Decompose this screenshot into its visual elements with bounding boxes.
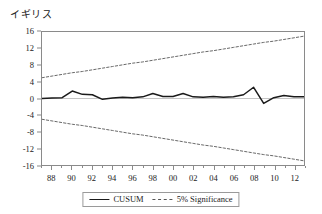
x-tick-mark-minor <box>122 166 123 168</box>
x-tick-mark <box>51 166 52 170</box>
x-tick-label: 08 <box>250 173 259 183</box>
x-tick-mark-minor <box>305 166 306 168</box>
y-tick-label: -12 <box>23 144 34 154</box>
x-tick-mark-minor <box>285 166 286 168</box>
x-tick-mark-minor <box>61 166 62 168</box>
x-tick-mark <box>193 166 194 170</box>
x-tick-mark <box>71 166 72 170</box>
y-tick-label: -8 <box>27 127 34 137</box>
cusum-chart: イギリス 1612840-4-8-12-16 88909294969800020… <box>0 0 322 214</box>
x-tick-mark <box>112 166 113 170</box>
plot-svg <box>42 32 304 165</box>
y-tick-label: 16 <box>26 26 35 36</box>
legend-label-cusum: CUSUM <box>113 195 143 204</box>
x-axis: 88909294969800020406081012 <box>41 166 305 188</box>
legend-swatch-dashed-line <box>153 199 173 200</box>
x-tick-mark-minor <box>163 166 164 168</box>
x-tick-label: 88 <box>47 173 56 183</box>
y-tick-label: 0 <box>30 94 34 104</box>
y-tick-label: 4 <box>30 77 34 87</box>
x-tick-label: 94 <box>108 173 117 183</box>
x-tick-label: 12 <box>291 173 300 183</box>
x-tick-label: 06 <box>230 173 239 183</box>
x-tick-mark-minor <box>244 166 245 168</box>
x-tick-mark-minor <box>224 166 225 168</box>
x-tick-mark-minor <box>41 166 42 168</box>
series-line-significance-2 <box>42 119 304 161</box>
plot-area <box>41 31 305 166</box>
y-tick-label: -16 <box>23 161 34 171</box>
y-tick-label: -4 <box>27 110 34 120</box>
x-tick-label: 92 <box>88 173 97 183</box>
chart-legend: CUSUM 5% Significance <box>82 192 239 207</box>
x-tick-label: 10 <box>270 173 279 183</box>
x-tick-mark <box>234 166 235 170</box>
legend-swatch-solid-line <box>89 199 109 200</box>
x-tick-mark <box>254 166 255 170</box>
x-tick-mark-minor <box>183 166 184 168</box>
x-tick-mark <box>132 166 133 170</box>
x-tick-mark-minor <box>82 166 83 168</box>
y-tick-label: 12 <box>26 43 35 53</box>
y-tick-label: 8 <box>30 60 34 70</box>
x-tick-mark <box>173 166 174 170</box>
x-tick-mark <box>214 166 215 170</box>
x-tick-label: 02 <box>189 173 198 183</box>
x-tick-mark <box>92 166 93 170</box>
series-line-cusum <box>42 87 304 103</box>
x-tick-label: 90 <box>67 173 76 183</box>
y-axis: 1612840-4-8-12-16 <box>0 31 41 166</box>
chart-title: イギリス <box>10 6 52 21</box>
x-tick-label: 00 <box>169 173 178 183</box>
x-tick-mark-minor <box>264 166 265 168</box>
series-line-significance-1 <box>42 36 304 78</box>
x-tick-mark <box>295 166 296 170</box>
x-tick-mark-minor <box>203 166 204 168</box>
x-tick-label: 96 <box>128 173 137 183</box>
x-tick-mark-minor <box>102 166 103 168</box>
x-tick-label: 04 <box>209 173 218 183</box>
x-tick-mark <box>153 166 154 170</box>
x-tick-mark <box>275 166 276 170</box>
legend-item-significance: 5% Significance <box>153 195 233 204</box>
x-tick-mark-minor <box>143 166 144 168</box>
x-tick-label: 98 <box>148 173 157 183</box>
legend-item-cusum: CUSUM <box>89 195 143 204</box>
legend-label-significance: 5% Significance <box>177 195 233 204</box>
